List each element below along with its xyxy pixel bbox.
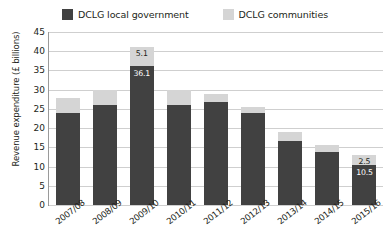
bar-slot: 2.510.5 xyxy=(346,32,383,205)
x-axis-tick: 2013/14 xyxy=(271,206,308,249)
y-axis-tick-label: 45 xyxy=(34,27,45,37)
stacked-bar[interactable] xyxy=(93,90,117,205)
y-axis-title: Revenue expenditure (£ billions) xyxy=(11,19,21,179)
bar-slot: 5.136.1 xyxy=(123,32,160,205)
bar-slot xyxy=(272,32,309,205)
y-axis-tick-label: 5 xyxy=(39,181,45,191)
y-axis-tick-label: 35 xyxy=(34,65,45,75)
y-axis-tick-label: 10 xyxy=(34,162,45,172)
bar-segment-local-government[interactable] xyxy=(241,113,265,205)
x-axis-tick: 2009/10 xyxy=(122,206,159,249)
bar-segment-communities[interactable] xyxy=(93,90,117,106)
bar-segment-communities[interactable] xyxy=(204,94,228,102)
bar-segment-local-government[interactable] xyxy=(167,105,191,205)
bar-segment-communities[interactable] xyxy=(278,132,302,140)
x-axis-tick: 2011/12 xyxy=(196,206,233,249)
bar-segment-local-government[interactable] xyxy=(56,113,80,205)
y-axis-tick-label: 30 xyxy=(34,85,45,95)
bar-slot xyxy=(160,32,197,205)
stacked-bar[interactable] xyxy=(56,98,80,205)
bar-segment-local-government[interactable] xyxy=(93,105,117,205)
x-axis-tick: 2010/11 xyxy=(159,206,196,249)
bar-segment-local-government[interactable]: 36.1 xyxy=(130,66,154,205)
x-axis-tick: 2012/13 xyxy=(234,206,271,249)
y-axis-tick-label: 15 xyxy=(34,142,45,152)
stacked-bar[interactable] xyxy=(167,90,191,205)
bar-series-group: 5.136.12.510.5 xyxy=(49,32,383,205)
plot-area: 051015202530354045 5.136.12.510.5 xyxy=(48,32,383,206)
legend-swatch-communities xyxy=(223,9,234,20)
y-axis-tick-label: 25 xyxy=(34,104,45,114)
bar-slot xyxy=(309,32,346,205)
bar-value-label-communities: 5.1 xyxy=(136,49,148,58)
stacked-bar[interactable] xyxy=(315,145,339,205)
x-axis-tick: 2015/16 xyxy=(345,206,382,249)
x-axis-labels: 2007/082008/092009/102010/112011/122012/… xyxy=(48,206,382,249)
legend-item-communities: DCLG communities xyxy=(223,9,328,20)
legend-item-local-government: DCLG local government xyxy=(62,9,189,20)
bar-segment-communities[interactable] xyxy=(167,90,191,105)
chart-legend: DCLG local government DCLG communities xyxy=(0,5,390,23)
bar-slot xyxy=(235,32,272,205)
bar-segment-communities[interactable] xyxy=(56,98,80,113)
stacked-bar[interactable] xyxy=(241,107,265,205)
bar-value-label-local-government: 10.5 xyxy=(356,168,373,177)
stacked-bar[interactable] xyxy=(204,94,228,205)
bar-slot xyxy=(197,32,234,205)
stacked-bar[interactable]: 5.136.1 xyxy=(130,47,154,205)
stacked-bar[interactable]: 2.510.5 xyxy=(352,155,376,205)
bar-slot xyxy=(86,32,123,205)
y-axis-tick-label: 0 xyxy=(39,200,45,210)
bar-slot xyxy=(49,32,86,205)
y-axis-tick-label: 40 xyxy=(34,46,45,56)
bar-segment-local-government[interactable] xyxy=(204,102,228,205)
x-axis-tick: 2014/15 xyxy=(308,206,345,249)
bar-segment-local-government[interactable] xyxy=(315,152,339,205)
bar-segment-communities[interactable]: 2.5 xyxy=(352,155,376,165)
legend-label-communities: DCLG communities xyxy=(239,9,328,20)
legend-swatch-local-government xyxy=(62,9,73,20)
stacked-bar[interactable] xyxy=(278,132,302,205)
legend-label-local-government: DCLG local government xyxy=(78,9,189,20)
bar-segment-communities[interactable]: 5.1 xyxy=(130,47,154,67)
bar-segment-local-government[interactable] xyxy=(278,141,302,205)
x-axis-tick: 2007/08 xyxy=(48,206,85,249)
bar-value-label-local-government: 36.1 xyxy=(133,69,150,78)
x-axis-tick: 2008/09 xyxy=(85,206,122,249)
y-axis-tick-label: 20 xyxy=(34,123,45,133)
